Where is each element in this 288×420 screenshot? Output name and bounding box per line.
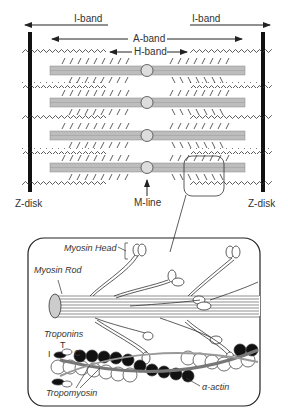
thick-filament bbox=[50, 58, 245, 83]
zoom-region bbox=[184, 156, 224, 196]
m-line-label: M-line bbox=[134, 198, 161, 208]
alpha-actin-label: α-actin bbox=[202, 383, 229, 392]
myosin-rod-label: Myosin Rod bbox=[34, 266, 82, 275]
myosin-rod bbox=[49, 294, 260, 318]
zoom-connector bbox=[170, 195, 186, 252]
tropomyosin-label: Tropomyosin bbox=[46, 389, 97, 398]
h-band-label: H-band bbox=[134, 47, 167, 57]
thick-filament bbox=[50, 123, 245, 148]
myosin-head-label: Myosin Head bbox=[64, 244, 117, 253]
a-band-label: A-band bbox=[133, 34, 165, 44]
z-disk-right-label: Z-disk bbox=[248, 199, 275, 209]
troponin-i-label: I bbox=[48, 350, 51, 359]
troponin-c-label: C bbox=[74, 349, 81, 358]
thick-filament bbox=[50, 155, 245, 180]
troponin-t-label: T bbox=[60, 341, 66, 350]
i-band-right-label: I-band bbox=[192, 14, 220, 24]
actin-filament bbox=[51, 344, 258, 387]
z-disk-right bbox=[261, 32, 265, 192]
z-disk-left-label: Z-disk bbox=[15, 199, 42, 209]
troponins-label: Troponins bbox=[44, 330, 83, 339]
sarcomere-diagram bbox=[0, 0, 288, 420]
i-band-left-label: I-band bbox=[74, 14, 102, 24]
z-disk-left bbox=[28, 32, 32, 192]
thick-filament bbox=[50, 90, 245, 115]
